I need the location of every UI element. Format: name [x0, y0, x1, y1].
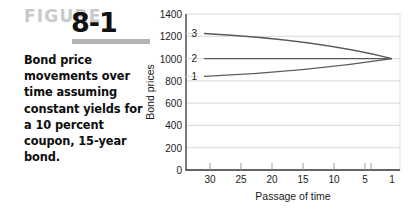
y-axis-tick-labels: 1400 1200 1000 800 600 400 200 0 [160, 9, 183, 176]
ytick-1400: 1400 [160, 9, 183, 20]
ytick-1200: 1200 [160, 31, 183, 42]
chart-axes [186, 14, 400, 170]
x-axis-tick-marks [210, 163, 371, 170]
figure-rule-divider [72, 39, 150, 44]
series-label-2: 2 [191, 53, 197, 64]
xtick-5: 5 [362, 174, 368, 185]
figure-root: FIGURE 8-1 Bond price movements over tim… [0, 0, 417, 216]
y-axis-title: Bond prices [144, 64, 156, 119]
ytick-1000: 1000 [160, 54, 183, 65]
series-curve-3 [204, 34, 392, 59]
xtick-20: 20 [266, 174, 278, 185]
xtick-10: 10 [328, 174, 340, 185]
series-curve-1 [204, 59, 392, 77]
ytick-0: 0 [176, 165, 182, 176]
figure-caption-panel: FIGURE 8-1 Bond price movements over tim… [0, 0, 152, 216]
xtick-15: 15 [297, 174, 309, 185]
ytick-800: 800 [165, 76, 182, 87]
xtick-1: 1 [389, 174, 395, 185]
figure-caption-text: Bond price movements over time assuming … [24, 52, 152, 165]
ytick-400: 400 [165, 120, 182, 131]
x-axis-title: Passage of time [255, 190, 330, 202]
xtick-25: 25 [235, 174, 247, 185]
bond-price-chart: 1400 1200 1000 800 600 400 200 0 [140, 0, 417, 216]
figure-number: 8-1 [71, 9, 117, 36]
x-axis-tick-labels: 30 25 20 15 10 5 1 [204, 174, 395, 185]
series-label-3: 3 [191, 28, 197, 39]
ytick-600: 600 [165, 98, 182, 109]
xtick-30: 30 [204, 174, 216, 185]
series-label-1: 1 [191, 71, 197, 82]
chart-panel: 1400 1200 1000 800 600 400 200 0 [140, 0, 417, 216]
ytick-200: 200 [165, 143, 182, 154]
